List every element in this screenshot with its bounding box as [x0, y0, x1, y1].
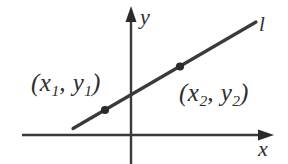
line-through-two-points-figure: (x1, y1) (x2, y2) y x l: [0, 0, 288, 164]
point-label-2-sub1: 2: [199, 92, 207, 109]
point-label-2: (x2, y2): [179, 80, 249, 105]
point-label-1-open: (x: [31, 69, 51, 96]
point-label-1: (x1, y1): [31, 70, 101, 95]
point-label-1-close: ): [92, 69, 101, 96]
line-label: l: [259, 14, 265, 35]
point-marker-2: [176, 62, 184, 70]
point-label-2-mid: , y: [207, 79, 232, 106]
point-label-2-close: ): [240, 79, 249, 106]
y-axis-arrowhead-icon: [126, 6, 137, 22]
point-marker-1: [101, 106, 109, 114]
point-label-2-open: (x: [179, 79, 199, 106]
x-axis-label: x: [258, 138, 268, 160]
point-label-1-mid: , y: [59, 69, 84, 96]
y-axis-label: y: [140, 6, 150, 28]
point-label-1-sub1: 1: [51, 82, 59, 99]
point-label-2-sub2: 2: [232, 92, 240, 109]
point-label-1-sub2: 1: [84, 82, 92, 99]
